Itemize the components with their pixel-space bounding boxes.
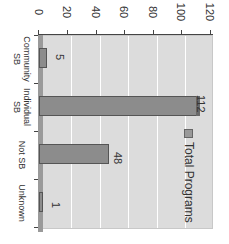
value-label: 5 bbox=[54, 54, 66, 60]
category-tick bbox=[34, 131, 38, 132]
legend-swatch bbox=[185, 129, 194, 138]
category-label-line: Unknown bbox=[17, 179, 27, 227]
axis-tick bbox=[38, 30, 39, 34]
axis-tick bbox=[153, 30, 154, 34]
category-label-line: Community bbox=[22, 35, 32, 83]
bar-community-sb bbox=[39, 48, 47, 68]
value-label: 1 bbox=[50, 202, 62, 208]
category-label-unknown: Unknown bbox=[17, 179, 27, 227]
category-label-line: SB bbox=[12, 35, 22, 83]
axis-tick bbox=[210, 30, 211, 34]
gridline bbox=[157, 36, 158, 228]
axis-tick bbox=[124, 30, 125, 34]
bar-individual-sb bbox=[39, 96, 200, 116]
gridline bbox=[71, 36, 72, 228]
axis-tick-label: 60 bbox=[118, 0, 130, 24]
axis-tick-label: 20 bbox=[61, 0, 73, 24]
axis-tick-label: 40 bbox=[90, 0, 102, 24]
axis-tick bbox=[181, 30, 182, 34]
value-label: 112 bbox=[195, 95, 207, 113]
gridline bbox=[100, 36, 101, 228]
axis-tick-label: 80 bbox=[147, 0, 159, 24]
legend-label: Total Programs bbox=[182, 142, 196, 223]
category-tick bbox=[34, 179, 38, 180]
value-axis-line bbox=[38, 34, 213, 35]
category-label-community-sb: Community SB bbox=[12, 35, 32, 83]
value-label: 48 bbox=[112, 152, 124, 164]
axis-tick-label: 0 bbox=[33, 0, 45, 24]
category-label-individual-sb: Individual SB bbox=[12, 83, 32, 131]
axis-tick bbox=[67, 30, 68, 34]
category-label-not-sb: Not SB bbox=[17, 131, 27, 179]
axis-tick-label: 120 bbox=[204, 0, 216, 24]
bar-unknown bbox=[39, 192, 43, 212]
category-tick bbox=[34, 227, 38, 228]
category-label-line: Not SB bbox=[17, 131, 27, 179]
bar-not-sb bbox=[39, 144, 109, 164]
category-tick bbox=[34, 83, 38, 84]
legend: Total Programs bbox=[182, 129, 196, 223]
category-label-line: Individual bbox=[22, 83, 32, 131]
category-label-line: SB bbox=[12, 83, 22, 131]
category-tick bbox=[34, 35, 38, 36]
axis-tick-label: 100 bbox=[175, 0, 187, 24]
gridline bbox=[128, 36, 129, 228]
axis-tick bbox=[96, 30, 97, 34]
